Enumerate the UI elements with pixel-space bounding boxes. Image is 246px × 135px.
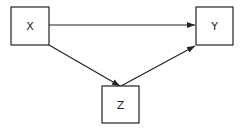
node-y: Y (196, 7, 233, 45)
node-x-label: X (26, 20, 34, 33)
causal-diagram: X Y Z (0, 0, 246, 135)
node-z-label: Z (117, 99, 125, 112)
edge-x-to-z (49, 45, 120, 86)
edge-z-to-y (121, 46, 195, 86)
node-y-label: Y (210, 20, 218, 33)
node-x: X (11, 7, 49, 45)
node-z: Z (102, 86, 139, 123)
